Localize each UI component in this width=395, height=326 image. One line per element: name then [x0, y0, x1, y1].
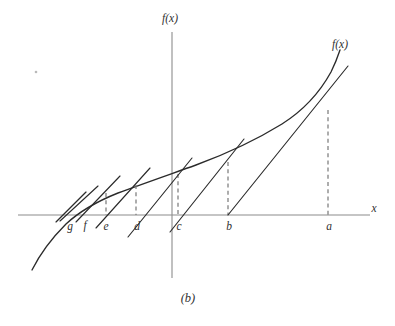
root-label-c: c — [176, 220, 181, 232]
tangent-lines-group — [56, 66, 348, 237]
scan-speck-artifact — [35, 71, 38, 74]
tangent-line-a — [228, 66, 348, 215]
y-axis-label: f(x) — [162, 12, 178, 25]
labels-group: f(x) x f(x) g f e d c b a (b) — [67, 12, 377, 305]
root-label-g: g — [67, 220, 73, 233]
function-curve — [32, 50, 340, 270]
root-label-b: b — [226, 220, 232, 232]
axes-group — [18, 32, 370, 278]
figure-svg-canvas: f(x) x f(x) g f e d c b a (b) — [0, 0, 395, 326]
tangent-line-f — [60, 186, 98, 221]
curve-label: f(x) — [332, 38, 348, 51]
x-axis-label: x — [370, 202, 377, 214]
root-label-f: f — [83, 219, 88, 232]
function-curve-group — [32, 50, 340, 270]
tangent-line-g — [56, 192, 86, 222]
drop-lines-group — [106, 110, 328, 215]
tangent-line-b — [170, 139, 244, 232]
root-label-e: e — [103, 220, 108, 232]
figure-caption: (b) — [181, 291, 196, 305]
root-label-a: a — [326, 220, 332, 232]
root-label-d: d — [134, 220, 140, 232]
newton-method-figure: f(x) x f(x) g f e d c b a (b) — [0, 0, 395, 326]
